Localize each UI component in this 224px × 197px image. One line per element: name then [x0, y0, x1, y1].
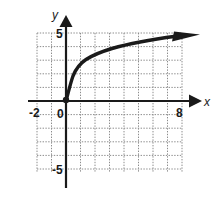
grid-lines — [37, 33, 182, 172]
y-tick-label-minus5: -5 — [52, 163, 63, 177]
graph-figure: -2 0 8 5 -5 x y — [0, 0, 224, 197]
x-tick-label-eight: 8 — [176, 106, 183, 120]
origin-point-marker — [63, 97, 69, 103]
x-axis-label: x — [203, 95, 211, 109]
y-axis-label: y — [51, 8, 59, 22]
x-tick-label-zero: 0 — [57, 107, 64, 121]
function-curve — [66, 32, 200, 102]
y-tick-label-five: 5 — [56, 27, 63, 41]
curve-arrowhead — [172, 32, 200, 42]
x-axis-arrowhead — [189, 95, 202, 108]
y-axis-arrowhead — [60, 15, 73, 27]
x-tick-label-minus2: -2 — [29, 106, 40, 120]
coordinate-plane-graph: -2 0 8 5 -5 x y — [0, 0, 224, 197]
